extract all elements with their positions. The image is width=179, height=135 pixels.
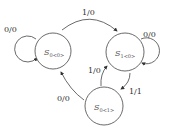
edge-label-s1_0-self: 0/0	[143, 30, 156, 39]
state-s0_0: S0<0>	[35, 33, 71, 69]
edge-s0_0-s1_0	[62, 19, 117, 31]
edge-s0_0-self	[15, 36, 37, 62]
state-subscript: 0<0>	[49, 52, 64, 58]
state-diagram: 0/0 1/0 0/0 1/1 1/0 0/0 S0<0> S1<0> S0<1…	[0, 0, 179, 135]
edge-label-s0_1-s1_0: 1/0	[88, 66, 101, 75]
state-s0_1: S0<1>	[85, 87, 123, 125]
state-subscript: 1<0>	[120, 53, 135, 59]
state-subscript: 0<1>	[99, 107, 114, 113]
state-s1_0: S1<0>	[106, 33, 144, 71]
edge-label-s0_0-s1_0: 1/0	[82, 8, 95, 17]
edge-s0_1-s1_0	[101, 66, 107, 86]
edge-label-s1_0-s0_1: 1/1	[129, 87, 142, 96]
edge-label-s0_0-self: 0/0	[4, 25, 17, 34]
edge-label-s0_1-s0_0: 0/0	[57, 94, 70, 103]
